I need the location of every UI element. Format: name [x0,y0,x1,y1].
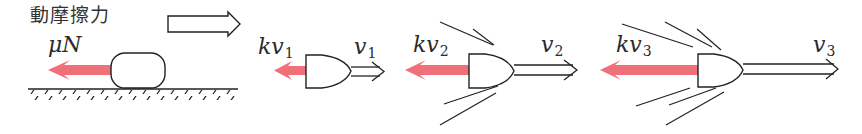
kinetic-friction-title: 動摩擦力 [30,6,110,25]
velocity-base: v [541,32,553,57]
drag-force-subscript: 2 [440,43,449,59]
bullet [469,54,514,88]
velocity-arrow-icon [514,60,577,80]
velocity-subscript: 2 [554,43,563,59]
drag-force-base: kv [258,34,284,59]
motion-arrow-icon [168,12,240,36]
drag-force-subscript: 1 [285,45,294,61]
drag-force-label-2: kv2 [413,34,449,58]
velocity-base: v [354,34,366,59]
drag-force-subscript: 3 [643,43,652,59]
diagram-graphics [0,0,862,134]
drag-force-arrow-icon [405,60,470,80]
bullet [698,54,743,87]
velocity-label-3: v3 [813,34,835,58]
velocity-arrow-icon [351,62,384,81]
ground-hatching [28,90,238,100]
block [111,53,165,88]
drag-force-base: kv [616,32,642,57]
velocity-arrow-icon [743,59,838,79]
velocity-label-2: v2 [541,34,563,58]
velocity-label-1: v1 [354,36,376,60]
drag-force-label-1: kv1 [258,36,294,60]
friction-force-label: μN [48,34,82,56]
drag-force-arrow-icon [274,61,308,80]
velocity-base: v [813,32,825,57]
drag-force-label-3: kv3 [616,34,652,58]
velocity-subscript: 3 [826,43,835,59]
friction-drag-diagram: 動摩擦力 μN kv1 v1 kv2 v2 kv3 v3 [0,0,862,134]
drag-force-base: kv [413,32,439,57]
velocity-subscript: 1 [367,45,376,61]
drag-force-arrow-icon [600,60,699,80]
bullet [306,55,351,88]
friction-force-arrow-icon [48,60,120,80]
